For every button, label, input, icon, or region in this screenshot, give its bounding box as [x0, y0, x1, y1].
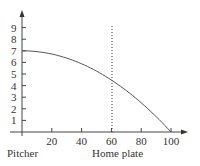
y-tick-label: 2 — [11, 103, 17, 115]
y-ticks: 123456789 — [11, 22, 26, 127]
y-tick-label: 3 — [11, 91, 17, 103]
y-tick-label: 7 — [11, 45, 17, 57]
x-tick-label: 80 — [136, 135, 148, 147]
y-tick-label: 8 — [11, 33, 17, 45]
x-tick-label: 100 — [163, 135, 180, 147]
home-plate-label: Home plate — [92, 147, 143, 159]
y-tick-label: 9 — [11, 22, 17, 34]
y-tick-label: 5 — [11, 68, 17, 80]
x-axis-arrow-icon — [181, 130, 188, 135]
chart: 123456789 20406080100 — [0, 0, 200, 166]
y-tick-label: 6 — [11, 56, 17, 68]
x-ticks: 20406080100 — [46, 128, 179, 147]
x-tick-label: 40 — [76, 135, 88, 147]
y-tick-label: 4 — [11, 80, 17, 92]
y-tick-label: 1 — [11, 114, 17, 126]
x-tick-label: 60 — [106, 135, 118, 147]
x-tick-label: 20 — [46, 135, 58, 147]
trajectory-curve — [22, 51, 171, 132]
pitcher-label: Pitcher — [7, 147, 38, 159]
y-axis-arrow-icon — [20, 10, 25, 17]
